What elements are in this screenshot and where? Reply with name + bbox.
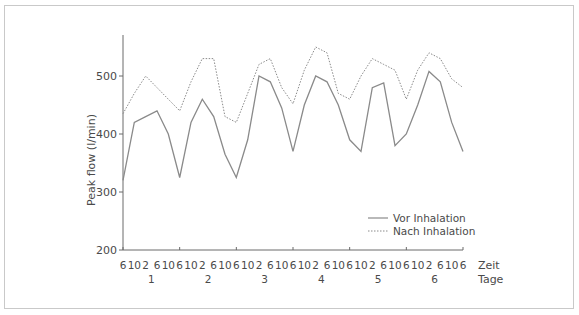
x-tick-label: 6 — [154, 259, 161, 271]
x-tick-label: 2 — [312, 259, 319, 271]
x-tick-label: 10 — [218, 259, 231, 271]
data-lines — [123, 47, 463, 180]
day-label: 6 — [431, 273, 438, 285]
x-tick-label: 6 — [120, 259, 127, 271]
x-axis-label: Zeit — [478, 259, 500, 272]
x-tick-label: 2 — [142, 259, 149, 271]
x-tick-label: 10 — [332, 259, 345, 271]
x-tick-label: 10 — [162, 259, 175, 271]
legend-label-vor: Vor Inhalation — [393, 212, 466, 224]
x-tick-label: 10 — [275, 259, 288, 271]
legend: Vor Inhalation Nach Inhalation — [368, 212, 475, 237]
y-tick-label: 200 — [96, 244, 117, 257]
day-label: 5 — [375, 273, 382, 285]
x-tick-label: 10 — [354, 259, 367, 271]
day-label: 3 — [261, 273, 268, 285]
axes: 2003004005006102610610261061026106102610… — [96, 35, 467, 285]
x-tick-label: 10 — [241, 259, 254, 271]
x-tick-label: 2 — [199, 259, 206, 271]
x-tick-label: 6 — [233, 259, 240, 271]
y-tick-label: 500 — [96, 70, 117, 83]
x-tick-label: 6 — [403, 259, 410, 271]
day-label: 4 — [318, 273, 325, 285]
x-tick-label: 6 — [346, 259, 353, 271]
x-tick-label: 6 — [437, 259, 444, 271]
x-tick-label: 10 — [128, 259, 141, 271]
x-tick-label: 6 — [460, 259, 467, 271]
x-axis-label-days: Tage — [477, 273, 504, 286]
series-nach-inhalation — [123, 47, 463, 122]
x-tick-label: 6 — [210, 259, 217, 271]
x-tick-label: 2 — [426, 259, 433, 271]
x-tick-label: 6 — [324, 259, 331, 271]
x-tick-label: 10 — [298, 259, 311, 271]
day-label: 2 — [205, 273, 212, 285]
x-tick-label: 6 — [290, 259, 297, 271]
legend-label-nach: Nach Inhalation — [393, 225, 475, 237]
series-vor-inhalation — [123, 71, 463, 180]
peak-flow-chart: 2003004005006102610610261061026106102610… — [0, 0, 579, 315]
y-axis-label: Peak flow (l/min) — [85, 114, 98, 206]
x-tick-label: 10 — [388, 259, 401, 271]
x-tick-label: 2 — [256, 259, 263, 271]
y-tick-label: 300 — [96, 186, 117, 199]
day-label: 1 — [148, 273, 155, 285]
x-tick-label: 10 — [184, 259, 197, 271]
x-tick-label: 6 — [380, 259, 387, 271]
x-tick-label: 6 — [176, 259, 183, 271]
y-tick-label: 400 — [96, 128, 117, 141]
x-tick-label: 10 — [411, 259, 424, 271]
x-tick-label: 2 — [369, 259, 376, 271]
x-tick-label: 10 — [445, 259, 458, 271]
x-tick-label: 6 — [267, 259, 274, 271]
